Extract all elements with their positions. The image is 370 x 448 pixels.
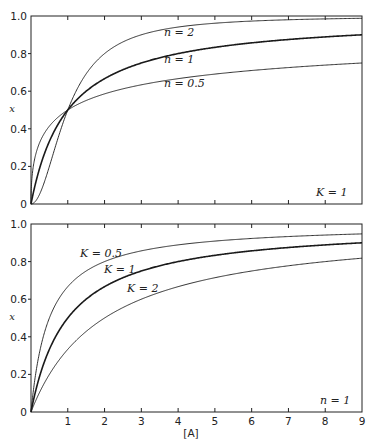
label-n-1: n = 1 [164,53,194,66]
bottom-ytick-0.6: 0.6 [10,293,27,305]
label-k-2: K = 2 [126,282,158,295]
curve-k-2 [31,258,362,412]
figure: 1.0 0.8 0.6 0.4 0.2 0 x n = 2 n = 1 n = … [0,0,370,448]
bottom-x-axis-label: [A] [183,427,198,439]
top-ytick-0: 0 [20,198,27,210]
bottom-plot: 1.0 0.8 0.6 0.4 0.2 0 1 2 3 4 5 6 7 8 9 … [9,218,365,439]
top-ytick-0.2: 0.2 [10,160,27,172]
bottom-xtick-9: 9 [359,415,366,427]
top-ytick-0.6: 0.6 [10,85,27,97]
annotation-k-1: K = 1 [315,186,347,199]
bottom-plot-ticks [28,224,325,412]
top-ytick-0.4: 0.4 [10,123,27,135]
bottom-ytick-0: 0 [20,406,27,418]
bottom-xtick-2: 2 [101,415,108,427]
top-plot-frame [31,16,362,204]
top-plot: 1.0 0.8 0.6 0.4 0.2 0 x n = 2 n = 1 n = … [9,10,362,210]
top-plot-curves [31,18,362,204]
curve-k-1 [31,243,362,412]
label-n-2: n = 2 [164,26,194,39]
bottom-ytick-0.2: 0.2 [10,368,27,380]
bottom-y-axis-label: x [9,311,15,322]
bottom-ytick-0.8: 0.8 [10,256,27,268]
label-k-0.5: K = 0.5 [79,247,122,260]
bottom-xtick-6: 6 [248,415,255,427]
curve-n-1 [31,35,362,204]
top-y-axis-label: x [9,103,15,114]
bottom-plot-curves [31,234,362,412]
label-n-0.5: n = 0.5 [164,77,205,90]
bottom-ytick-1.0: 1.0 [10,218,27,230]
bottom-xtick-1: 1 [64,415,71,427]
label-k-1: K = 1 [103,263,135,276]
top-plot-ticks [28,16,325,204]
annotation-n-1: n = 1 [320,394,350,407]
curve-k-0.5 [31,234,362,412]
bottom-xtick-5: 5 [212,415,219,427]
top-ytick-0.8: 0.8 [10,48,27,60]
curve-n-2 [31,18,362,204]
bottom-xtick-4: 4 [175,415,182,427]
bottom-xtick-8: 8 [322,415,329,427]
bottom-xtick-3: 3 [138,415,145,427]
bottom-xtick-7: 7 [285,415,292,427]
top-ytick-1.0: 1.0 [10,10,27,22]
bottom-ytick-0.4: 0.4 [10,331,27,343]
